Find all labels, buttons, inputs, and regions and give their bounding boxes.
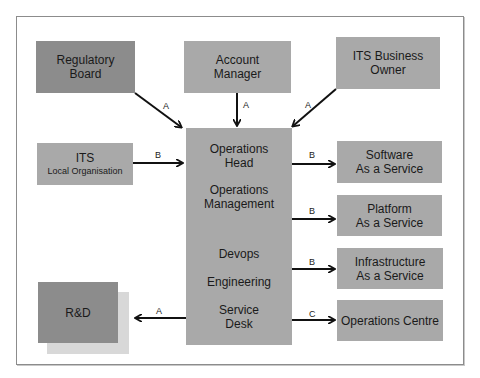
arrow-owner-to-center bbox=[293, 89, 336, 126]
edge-label-regulatory: A bbox=[163, 101, 169, 111]
arrows-layer bbox=[0, 0, 480, 378]
edge-label-owner: A bbox=[305, 100, 311, 110]
edge-label-rnd: A bbox=[156, 306, 162, 316]
edge-label-paas: B bbox=[309, 206, 315, 216]
arrow-regulatory-to-center bbox=[135, 93, 181, 127]
edge-label-local: B bbox=[155, 150, 161, 160]
edge-label-saas: B bbox=[309, 150, 315, 160]
edge-label-account: A bbox=[243, 100, 249, 110]
edge-label-opscentre: C bbox=[309, 309, 316, 319]
edge-label-iaas: B bbox=[309, 257, 315, 267]
